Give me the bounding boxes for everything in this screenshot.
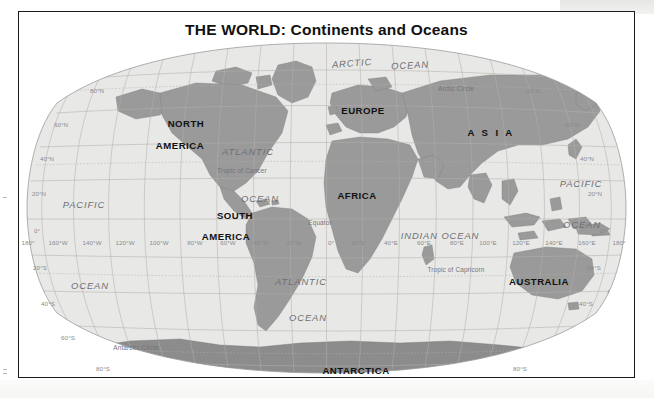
- page-title: THE WORLD: Continents and Oceans: [19, 21, 634, 39]
- world-map[interactable]: NORTHAMERICASOUTHAMERICAEUROPEAFRICAA S …: [20, 41, 633, 376]
- scan-edge-tick: [3, 369, 7, 370]
- scan-artifact-bottom: [0, 380, 654, 398]
- page-root: THE WORLD: Continents and Oceans: [0, 0, 654, 398]
- scan-edge-tick: [3, 197, 7, 198]
- map-frame: THE WORLD: Continents and Oceans: [18, 11, 635, 378]
- scan-edge-tick: [3, 373, 7, 374]
- ocean-fill-group: [20, 41, 633, 376]
- world-map-svg: [20, 41, 633, 376]
